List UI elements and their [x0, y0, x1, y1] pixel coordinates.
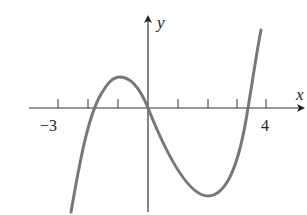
cubic-curve: [71, 30, 261, 212]
cubic-graph: x y −3 4: [0, 0, 307, 215]
y-axis-label: y: [155, 13, 165, 32]
x-axis-label: x: [295, 85, 304, 104]
tick-label-4: 4: [261, 117, 269, 134]
x-ticks: [58, 99, 266, 108]
tick-label-neg3: −3: [40, 117, 57, 134]
